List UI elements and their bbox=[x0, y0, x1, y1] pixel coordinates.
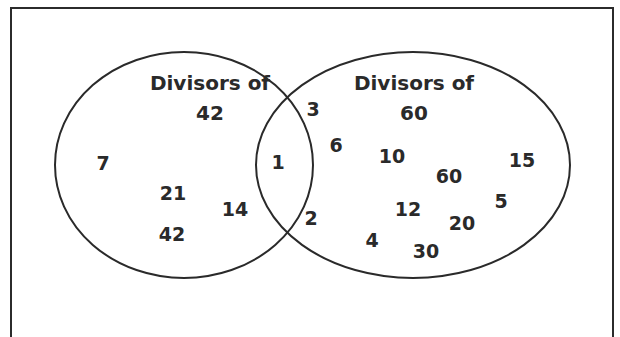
set-b-element: 4 bbox=[365, 229, 378, 251]
set-b-title-line1: Divisors of bbox=[354, 71, 474, 95]
set-b-element: 10 bbox=[379, 145, 405, 167]
set-b-element: 15 bbox=[509, 149, 535, 171]
set-a-title-line1: Divisors of bbox=[150, 71, 270, 95]
set-b-element: 5 bbox=[494, 190, 507, 212]
set-b-element: 12 bbox=[395, 198, 421, 220]
set-a-title-line2: 42 bbox=[196, 101, 224, 125]
set-b-element: 60 bbox=[436, 165, 462, 187]
set-b-element: 20 bbox=[449, 212, 475, 234]
intersection-element: 3 bbox=[306, 98, 319, 120]
set-a-element: 42 bbox=[159, 223, 185, 245]
set-a-element: 14 bbox=[222, 198, 248, 220]
intersection-element: 1 bbox=[271, 151, 284, 173]
intersection-element: 6 bbox=[329, 134, 342, 156]
set-b-element: 30 bbox=[413, 240, 439, 262]
set-b-title-line2: 60 bbox=[400, 101, 428, 125]
set-a-element: 7 bbox=[96, 152, 109, 174]
intersection-element: 2 bbox=[304, 207, 317, 229]
set-a-element: 21 bbox=[160, 182, 186, 204]
